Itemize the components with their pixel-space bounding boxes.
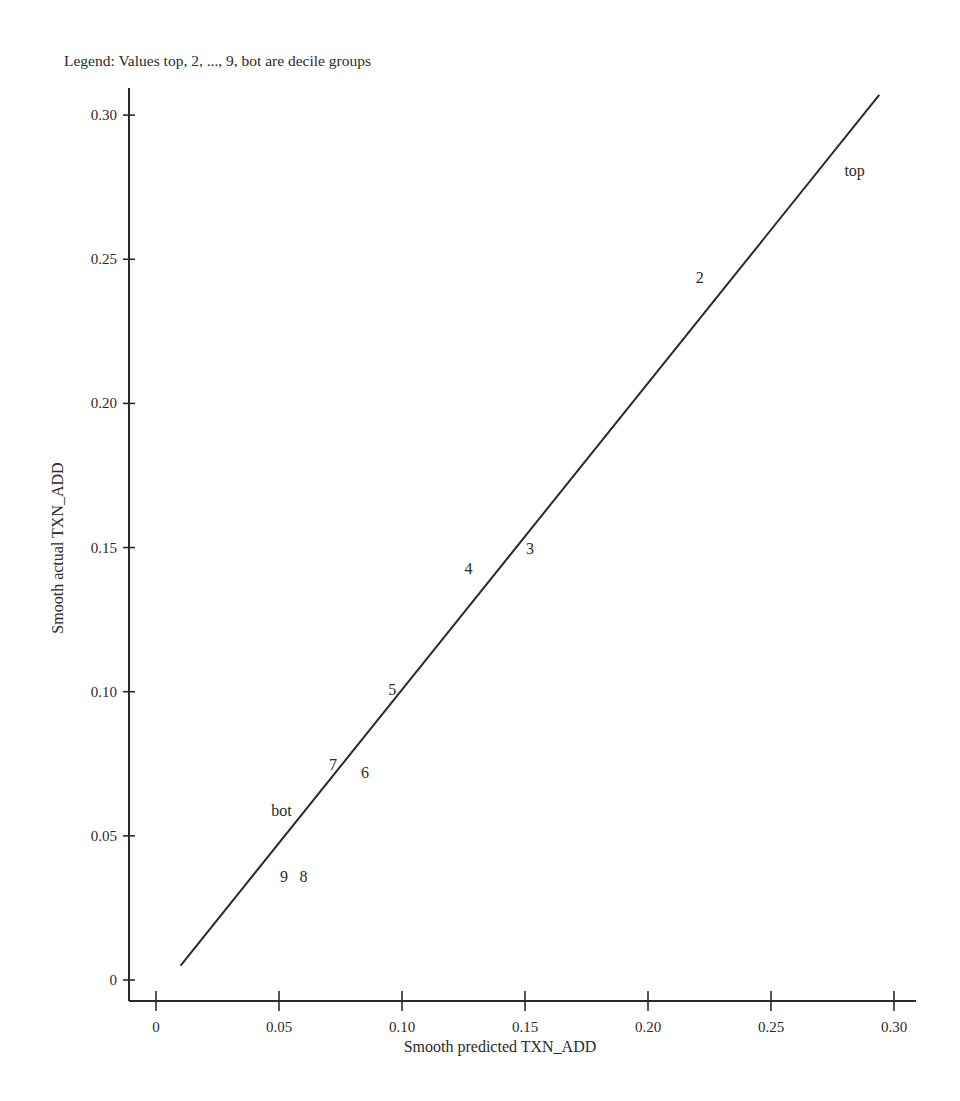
y-tick-label: 0.25	[91, 251, 117, 267]
x-tick-label: 0.15	[512, 1019, 538, 1035]
y-axis-label: Smooth actual TXN_ADD	[49, 462, 66, 633]
fit-line	[181, 95, 880, 966]
y-tick-label: 0.20	[91, 395, 117, 411]
y-tick-label: 0.30	[91, 107, 117, 123]
decile-label-8: 8	[300, 868, 308, 885]
chart-canvas: 00.050.100.150.200.250.30 00.050.100.150…	[0, 0, 960, 1101]
decile-label-top: top	[844, 162, 864, 180]
decile-label-6: 6	[361, 764, 369, 781]
decile-label-9: 9	[280, 868, 288, 885]
decile-label-4: 4	[464, 560, 472, 577]
y-tick-label: 0.10	[91, 684, 117, 700]
y-tick-label: 0.15	[91, 540, 117, 556]
x-tick-label: 0.20	[635, 1019, 661, 1035]
axes	[129, 88, 916, 1001]
y-tick-label: 0.05	[91, 828, 117, 844]
x-axis-label: Smooth predicted TXN_ADD	[404, 1038, 597, 1056]
x-tick-label: 0.10	[389, 1019, 415, 1035]
x-axis-ticks: 00.050.100.150.200.250.30	[152, 991, 907, 1035]
decile-label-2: 2	[696, 269, 704, 286]
decile-label-5: 5	[388, 681, 396, 698]
decile-label-3: 3	[526, 540, 534, 557]
x-tick-label: 0.05	[266, 1019, 292, 1035]
x-tick-label: 0.25	[758, 1019, 784, 1035]
y-tick-label: 0	[110, 972, 118, 988]
x-tick-label: 0	[152, 1019, 160, 1035]
x-tick-label: 0.30	[881, 1019, 907, 1035]
decile-label-7: 7	[329, 756, 337, 773]
decile-label-bot: bot	[271, 802, 292, 819]
plot-series: top23456789bot	[181, 95, 880, 966]
